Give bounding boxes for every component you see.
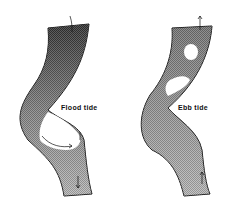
ebb-eddy-upper bbox=[184, 44, 198, 60]
flood-tide-label: Flood tide bbox=[61, 104, 97, 111]
tidal-channel-diagram bbox=[0, 0, 228, 203]
ebb-tide-label: Ebb tide bbox=[178, 104, 208, 111]
